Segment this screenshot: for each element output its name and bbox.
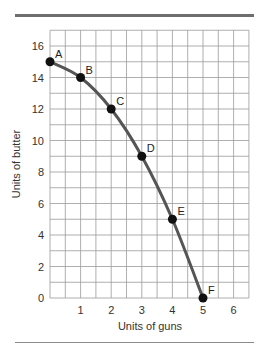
x-axis-ticks: 123456: [78, 304, 237, 316]
y-tick-label: 8: [38, 166, 44, 178]
point-label-d: D: [147, 142, 155, 154]
x-tick-label: 1: [78, 304, 84, 316]
point-marker-f: [199, 294, 208, 303]
bottom-rule: [15, 342, 254, 343]
y-tick-label: 16: [32, 40, 44, 52]
point-label-c: C: [116, 95, 124, 107]
point-label-a: A: [55, 48, 63, 60]
grid: [50, 30, 249, 298]
point-marker-e: [168, 215, 177, 224]
x-tick-label: 5: [200, 304, 206, 316]
y-tick-label: 14: [32, 72, 44, 84]
x-axis-label: Units of guns: [118, 320, 183, 332]
point-label-f: F: [208, 284, 215, 296]
y-axis-ticks: 0246810121416: [32, 40, 44, 304]
x-tick-label: 2: [108, 304, 114, 316]
ppf-chart: 0246810121416 123456 ABCDEF Units of gun…: [0, 0, 263, 356]
y-tick-label: 2: [38, 261, 44, 273]
x-tick-label: 6: [231, 304, 237, 316]
point-marker-b: [76, 73, 85, 82]
point-marker-c: [107, 105, 116, 114]
point-label-e: E: [177, 205, 184, 217]
point-label-b: B: [86, 64, 93, 76]
y-tick-label: 10: [32, 135, 44, 147]
point-marker-d: [137, 152, 146, 161]
point-marker-a: [46, 57, 55, 66]
x-tick-label: 3: [139, 304, 145, 316]
y-tick-label: 0: [38, 292, 44, 304]
y-tick-label: 6: [38, 198, 44, 210]
y-tick-label: 4: [38, 229, 44, 241]
x-tick-label: 4: [169, 304, 175, 316]
y-tick-label: 12: [32, 103, 44, 115]
y-axis-label: Units of butter: [10, 129, 22, 198]
